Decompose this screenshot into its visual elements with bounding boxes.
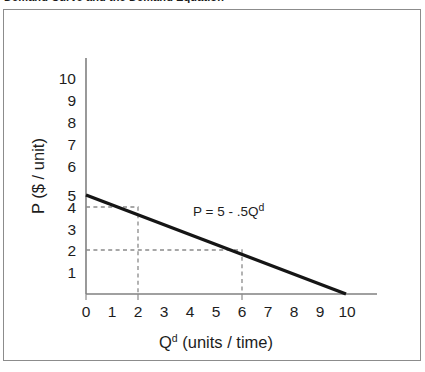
guide-line-point-b [86, 250, 242, 294]
x-axis-title: Qd (units / time) [159, 332, 273, 351]
x-tick-label-5: 5 [212, 303, 221, 320]
x-tick-label-6: 6 [238, 303, 247, 320]
y-tick-label-4: 4 [67, 199, 76, 216]
y-tick-label-10: 10 [59, 70, 77, 87]
y-axis-title: P ($ / unit) [29, 138, 47, 214]
x-axis-title-base: Q [159, 333, 172, 351]
x-tick-label-0: 0 [82, 303, 91, 320]
figure-frame: 10 9 8 7 6 5 4 3 2 1 0 1 2 3 4 5 6 7 8 9… [3, 9, 421, 361]
y-tick-label-9: 9 [67, 92, 76, 109]
y-tick-label-7: 7 [67, 136, 76, 153]
x-tick-label-3: 3 [160, 303, 169, 320]
y-tick-label-2: 2 [67, 242, 76, 259]
x-tick-label-10: 10 [338, 303, 356, 320]
x-tick-label-1: 1 [108, 303, 117, 320]
y-tick-label-1: 1 [67, 264, 76, 281]
y-tick-label-3: 3 [67, 221, 76, 238]
equation-annotation: P = 5 - .5Qd [193, 201, 264, 219]
demand-curve-chart: 10 9 8 7 6 5 4 3 2 1 0 1 2 3 4 5 6 7 8 9… [4, 10, 420, 360]
x-tick-label-4: 4 [186, 303, 195, 320]
figure-caption: Demand Curve and the Demand Equation [4, 0, 224, 3]
y-tick-label-8: 8 [67, 114, 76, 131]
y-tick-label-6: 6 [67, 158, 76, 175]
x-axis-title-rest: (units / time) [178, 333, 273, 351]
x-tick-label-8: 8 [290, 303, 299, 320]
equation-annotation-base: P = 5 - .5Q [193, 204, 258, 219]
equation-annotation-superscript: d [258, 201, 264, 213]
x-tick-label-7: 7 [264, 303, 273, 320]
x-tick-label-2: 2 [134, 303, 143, 320]
x-tick-label-9: 9 [316, 303, 325, 320]
figure-caption-strip: Demand Curve and the Demand Equation [0, 0, 425, 9]
